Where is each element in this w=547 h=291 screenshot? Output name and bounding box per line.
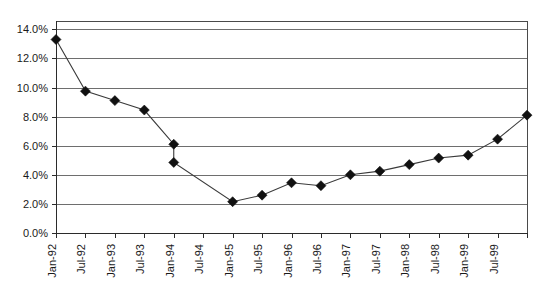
x-tick-label: Jan-96 [282,244,294,278]
x-tick-label: Jul-97 [370,244,382,274]
x-tick-label: Jan-92 [46,244,58,278]
y-tick-label: 6.0% [23,140,48,152]
x-tick-label: Jul-99 [488,244,500,274]
x-tick-label: Jul-98 [429,244,441,274]
x-tick-label: Jul-93 [134,244,146,274]
y-tick-label: 0.0% [23,227,48,239]
x-tick-label: Jan-95 [223,244,235,278]
x-tick-label: Jan-93 [105,244,117,278]
x-tick-label: Jan-99 [458,244,470,278]
chart-canvas: 0.0%2.0%4.0%6.0%8.0%10.0%12.0%14.0% Jan-… [0,0,547,291]
x-tick-label: Jul-96 [311,244,323,274]
x-tick-label: Jul-92 [75,244,87,274]
x-tick-label: Jan-97 [340,244,352,278]
y-tick-label: 2.0% [23,198,48,210]
x-tick-label: Jan-98 [399,244,411,278]
x-tick-label: Jul-95 [252,244,264,274]
y-tick-label: 10.0% [17,82,48,94]
y-tick-label: 14.0% [17,23,48,35]
x-tick-label: Jan-94 [164,244,176,278]
y-tick-label: 4.0% [23,169,48,181]
x-tick-label: Jul-94 [193,244,205,274]
y-tick-label: 8.0% [23,111,48,123]
y-tick-label: 12.0% [17,52,48,64]
line-chart: 0.0%2.0%4.0%6.0%8.0%10.0%12.0%14.0% Jan-… [0,0,547,291]
